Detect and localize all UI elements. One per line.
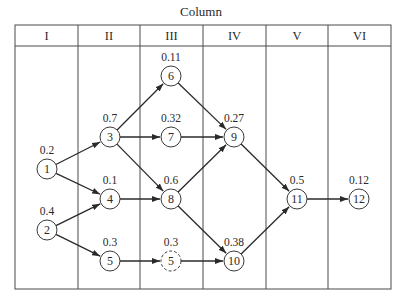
column-header: VI	[328, 27, 391, 45]
node-value: 0.2	[27, 144, 67, 156]
column-header: I	[15, 27, 78, 45]
column-header: II	[78, 27, 140, 45]
node-value: 0.4	[27, 205, 67, 217]
node-value: 0.12	[339, 174, 379, 186]
node-label: 4	[98, 192, 122, 206]
node-value: 0.11	[151, 51, 191, 63]
node-value: 0.32	[151, 112, 191, 124]
node-label: 8	[159, 192, 183, 206]
column-header: III	[140, 27, 203, 45]
node-value: 0.27	[214, 112, 254, 124]
node-value: 0.3	[151, 236, 191, 248]
node-label: 1	[35, 162, 59, 176]
column-header: V	[266, 27, 328, 45]
node-value: 0.3	[90, 236, 130, 248]
node-value: 0.5	[277, 174, 317, 186]
node-label: 10	[222, 254, 246, 268]
node-label: 7	[159, 130, 183, 144]
node-label: 6	[159, 69, 183, 83]
node-value: 0.6	[151, 174, 191, 186]
network-diagram: Column IIIIIIIVVVI 10.220.430.740.150.36…	[0, 0, 402, 306]
node-value: 0.38	[214, 236, 254, 248]
node-label: 5	[159, 254, 183, 268]
node-label: 5	[98, 254, 122, 268]
node-value: 0.1	[90, 174, 130, 186]
node-label: 11	[285, 192, 309, 206]
node-label: 12	[347, 192, 371, 206]
node-label: 2	[35, 223, 59, 237]
node-label: 3	[98, 130, 122, 144]
column-header: IV	[203, 27, 266, 45]
node-label: 9	[222, 130, 246, 144]
node-value: 0.7	[90, 112, 130, 124]
